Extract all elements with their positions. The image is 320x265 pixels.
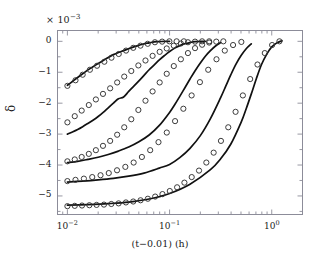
data-marker bbox=[93, 148, 98, 153]
data-marker bbox=[239, 39, 244, 44]
figure-container: × 10−3 δ (t−0.01) (h) 0−1−2−3−4−5 10−210… bbox=[0, 0, 320, 265]
data-marker bbox=[164, 46, 169, 51]
data-marker bbox=[65, 204, 70, 209]
data-marker bbox=[100, 143, 105, 148]
data-marker bbox=[108, 138, 113, 143]
data-marker bbox=[98, 173, 103, 178]
data-marker bbox=[172, 119, 177, 124]
data-marker bbox=[233, 109, 238, 114]
data-marker bbox=[218, 138, 223, 143]
data-marker bbox=[150, 53, 155, 58]
data-marker bbox=[114, 168, 119, 173]
data-marker bbox=[255, 62, 260, 67]
data-marker bbox=[196, 168, 201, 173]
data-marker bbox=[90, 174, 95, 179]
data-marker bbox=[214, 39, 219, 44]
data-marker bbox=[171, 43, 176, 48]
data-marker bbox=[197, 80, 202, 85]
data-marker bbox=[115, 132, 120, 137]
data-marker bbox=[230, 42, 235, 47]
data-marker bbox=[221, 39, 226, 44]
data-marker bbox=[189, 174, 194, 179]
data-marker bbox=[129, 68, 134, 73]
data-marker bbox=[175, 185, 180, 190]
data-marker bbox=[200, 42, 205, 47]
data-marker bbox=[181, 106, 186, 111]
data-marker bbox=[108, 86, 113, 91]
data-marker bbox=[136, 63, 141, 68]
data-marker bbox=[248, 76, 253, 81]
data-marker bbox=[157, 80, 162, 85]
data-marker bbox=[222, 48, 227, 53]
data-marker bbox=[79, 154, 84, 159]
data-marker bbox=[156, 140, 161, 145]
data-marker bbox=[150, 89, 155, 94]
data-marker bbox=[164, 71, 169, 76]
data-marker bbox=[204, 160, 209, 165]
data-marker bbox=[178, 57, 183, 62]
data-series-group bbox=[65, 39, 282, 209]
data-marker bbox=[143, 98, 148, 103]
data-marker bbox=[139, 154, 144, 159]
data-marker bbox=[157, 49, 162, 54]
data-marker bbox=[226, 125, 231, 130]
data-marker bbox=[211, 150, 216, 155]
data-marker bbox=[129, 117, 134, 122]
data-marker bbox=[185, 50, 190, 55]
data-marker bbox=[240, 93, 245, 98]
data-marker bbox=[189, 93, 194, 98]
data-marker bbox=[164, 130, 169, 135]
data-marker bbox=[72, 114, 77, 119]
data-marker bbox=[86, 102, 91, 107]
plot-svg bbox=[0, 0, 320, 265]
data-marker bbox=[148, 148, 153, 153]
data-marker bbox=[182, 180, 187, 185]
curve-1-line bbox=[67, 41, 169, 85]
data-marker bbox=[131, 160, 136, 165]
data-marker bbox=[136, 107, 141, 112]
data-marker bbox=[106, 170, 111, 175]
data-marker bbox=[123, 164, 128, 169]
data-marker bbox=[122, 74, 127, 79]
data-marker bbox=[79, 108, 84, 113]
data-marker bbox=[192, 46, 197, 51]
data-marker bbox=[100, 91, 105, 96]
data-marker bbox=[115, 80, 120, 85]
data-marker bbox=[171, 63, 176, 68]
data-marker bbox=[143, 58, 148, 63]
data-marker bbox=[214, 57, 219, 62]
data-marker bbox=[206, 67, 211, 72]
data-marker bbox=[122, 125, 127, 130]
data-marker bbox=[65, 120, 70, 125]
data-marker bbox=[86, 151, 91, 156]
data-marker bbox=[93, 97, 98, 102]
